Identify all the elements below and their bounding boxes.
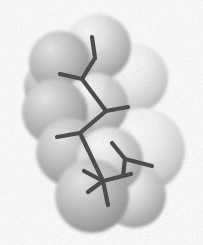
molecular-model-figure (0, 0, 203, 245)
atom-sphere-9 (55, 159, 129, 233)
bond-b15 (123, 159, 125, 176)
molecule-canvas (0, 0, 203, 245)
bond-b2 (92, 37, 95, 58)
